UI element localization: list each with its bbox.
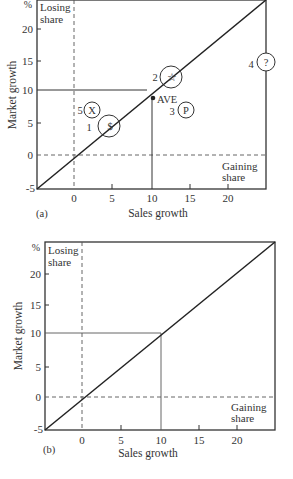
x-tick-label: 15 bbox=[185, 192, 197, 204]
svg-text:4: 4 bbox=[248, 59, 254, 70]
chart-panel-a: % 20 15 10 5 0 -5 0 5 10 15 20 Sales gro… bbox=[6, 0, 275, 220]
losing-share-label: share bbox=[40, 13, 63, 25]
y-tick-label: 20 bbox=[22, 23, 34, 35]
y-tick-label: 15 bbox=[22, 55, 34, 67]
x-ticks bbox=[121, 425, 237, 430]
svg-text:5: 5 bbox=[77, 105, 82, 116]
gaining-share-label: share bbox=[222, 171, 245, 183]
y-tick-label: 10 bbox=[22, 84, 34, 96]
y-tick-label: 15 bbox=[30, 299, 42, 311]
chart-panel-b: % 20 15 10 5 0 -5 0 5 10 15 20 Sales gro… bbox=[12, 242, 275, 460]
svg-text:P: P bbox=[183, 105, 189, 116]
x-ticks bbox=[112, 184, 228, 189]
y-tick-label: 20 bbox=[30, 268, 42, 280]
losing-share-label: Losing bbox=[48, 244, 79, 256]
x-axis-label: Sales growth bbox=[118, 447, 178, 460]
y-tick-label: 10 bbox=[30, 327, 42, 339]
y-tick-label: 5 bbox=[28, 117, 34, 129]
svg-text:AVE: AVE bbox=[157, 94, 177, 105]
x-tick-label: 10 bbox=[147, 192, 159, 204]
panel-label: (b) bbox=[43, 444, 56, 456]
average-point: AVE bbox=[151, 94, 178, 105]
svg-text:2: 2 bbox=[152, 72, 157, 83]
figure: % 20 15 10 5 0 -5 0 5 10 15 20 Sales gro… bbox=[0, 0, 293, 479]
y-axis-label: Market growth bbox=[12, 301, 25, 370]
svg-text:?: ? bbox=[264, 57, 269, 68]
y-tick-label: 0 bbox=[28, 149, 34, 161]
losing-share-label: share bbox=[48, 256, 71, 268]
svg-text:$: $ bbox=[107, 121, 112, 132]
x-tick-label: 10 bbox=[156, 434, 168, 446]
svg-text:1: 1 bbox=[86, 122, 91, 133]
y-tick-label: -5 bbox=[26, 182, 36, 194]
losing-share-label: Losing bbox=[40, 1, 71, 13]
y-unit-label: % bbox=[32, 242, 40, 253]
y-tick-label: -5 bbox=[34, 423, 44, 435]
x-tick-label: 15 bbox=[194, 434, 206, 446]
y-axis-label: Market growth bbox=[6, 60, 19, 129]
point-2: ☆ 2 bbox=[152, 66, 182, 88]
y-unit-label: % bbox=[24, 0, 32, 10]
panel-label: (a) bbox=[36, 208, 48, 220]
gaining-share-label: share bbox=[231, 412, 254, 424]
point-4: ? 4 bbox=[248, 53, 275, 71]
x-axis-label: Sales growth bbox=[128, 207, 188, 220]
x-tick-label: 5 bbox=[109, 192, 115, 204]
x-tick-label: 5 bbox=[118, 434, 124, 446]
x-tick-label: 0 bbox=[79, 434, 85, 446]
x-tick-label: 20 bbox=[223, 192, 235, 204]
point-5: X 5 bbox=[77, 102, 100, 118]
svg-text:3: 3 bbox=[169, 106, 174, 117]
x-tick-label: 20 bbox=[232, 434, 244, 446]
svg-text:☆: ☆ bbox=[167, 71, 177, 83]
y-tick-label: 5 bbox=[36, 361, 42, 373]
y-tick-label: 0 bbox=[36, 391, 42, 403]
x-tick-label: 0 bbox=[71, 192, 77, 204]
svg-text:X: X bbox=[88, 105, 96, 116]
